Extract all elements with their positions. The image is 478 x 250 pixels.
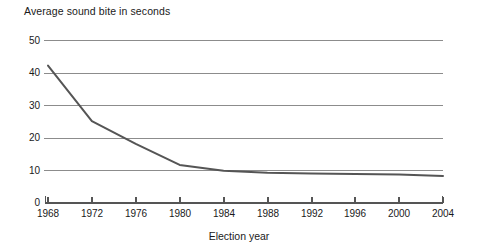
x-tick-label-2000: 2000 <box>379 209 419 219</box>
y-tick-label-30: 30 <box>18 101 40 111</box>
y-tick-label-0: 0 <box>18 198 40 208</box>
x-axis-title: Election year <box>0 230 478 242</box>
axis-end-caps <box>46 196 443 203</box>
y-tick-marks <box>44 41 48 171</box>
data-series-line <box>48 66 443 177</box>
y-tick-label-40: 40 <box>18 68 40 78</box>
x-tick-label-1968: 1968 <box>28 209 68 219</box>
x-tick-label-1992: 1992 <box>292 209 332 219</box>
x-tick-label-1976: 1976 <box>116 209 156 219</box>
x-tick-label-1984: 1984 <box>204 209 244 219</box>
x-tick-marks <box>48 197 443 203</box>
x-tick-label-1996: 1996 <box>335 209 375 219</box>
x-tick-label-1980: 1980 <box>160 209 200 219</box>
x-tick-label-2004: 2004 <box>423 209 463 219</box>
gridlines <box>48 41 443 171</box>
y-tick-label-20: 20 <box>18 133 40 143</box>
x-tick-label-1988: 1988 <box>248 209 288 219</box>
y-tick-label-10: 10 <box>18 166 40 176</box>
x-tick-label-1972: 1972 <box>72 209 112 219</box>
chart-container: Average sound bite in seconds <box>0 0 478 250</box>
y-tick-label-50: 50 <box>18 36 40 46</box>
